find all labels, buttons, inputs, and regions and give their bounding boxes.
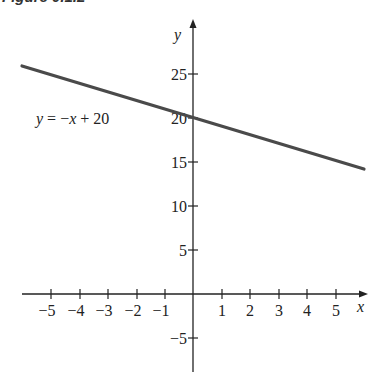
svg-text:5: 5 [179, 242, 187, 259]
x-axis-label: x [356, 298, 364, 315]
equation-label: y = −x + 20 [34, 110, 109, 128]
y-axis-arrow-icon [190, 19, 197, 28]
svg-text:−2: −2 [124, 302, 141, 319]
svg-text:15: 15 [171, 154, 187, 171]
svg-text:10: 10 [171, 198, 187, 215]
svg-text:5: 5 [332, 302, 340, 319]
svg-text:2: 2 [246, 302, 254, 319]
svg-text:−4: −4 [67, 302, 84, 319]
x-tick-labels: −5 −4 −3 −2 −1 1 2 3 4 5 [38, 302, 340, 319]
svg-text:−5: −5 [38, 302, 55, 319]
y-tick-labels: 25 20 15 10 5 −5 [170, 66, 187, 347]
svg-text:−1: −1 [152, 302, 169, 319]
svg-text:1: 1 [218, 302, 226, 319]
line-chart: −5 −4 −3 −2 −1 1 2 3 4 5 x 25 20 15 10 5… [0, 0, 386, 378]
svg-text:4: 4 [303, 302, 311, 319]
svg-text:25: 25 [171, 66, 187, 83]
svg-text:3: 3 [275, 302, 283, 319]
x-axis [22, 289, 368, 299]
x-axis-arrow-icon [359, 291, 368, 298]
svg-text:−5: −5 [170, 330, 187, 347]
y-axis-label: y [172, 26, 182, 44]
y-axis [188, 19, 198, 372]
svg-text:−3: −3 [95, 302, 112, 319]
